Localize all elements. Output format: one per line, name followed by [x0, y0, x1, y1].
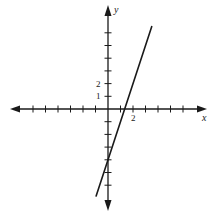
y-axis-up-arrow-icon	[105, 5, 112, 16]
y-axis-down-arrow-icon	[105, 200, 112, 211]
x-axis-label: x	[201, 112, 207, 123]
plotted-line	[96, 26, 152, 196]
coordinate-plane: y x 2 1 2	[0, 0, 217, 221]
y-axis-label: y	[113, 4, 119, 15]
x-axis-left-arrow-icon	[10, 106, 20, 113]
y-tick-label-1: 1	[96, 91, 101, 101]
x-tick-label-2: 2	[131, 113, 136, 123]
y-tick-label-2: 2	[96, 79, 101, 89]
